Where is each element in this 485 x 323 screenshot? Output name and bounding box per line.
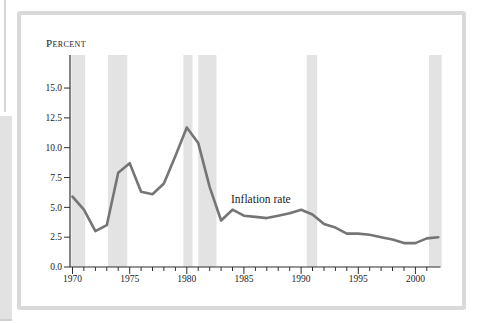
recession-band [198, 55, 216, 267]
recession-band [108, 55, 127, 267]
y-tick-label: 15.0 [45, 83, 62, 93]
x-tick-label: 1995 [349, 274, 368, 284]
y-tick-label: 10.0 [45, 143, 62, 153]
textbook-figure-page: 0.02.55.07.510.012.515.01970197519801985… [0, 0, 485, 323]
inflation-rate-line [73, 127, 439, 243]
series-label-inflation-rate: Inflation rate [231, 193, 291, 205]
y-tick-label: 12.5 [45, 113, 62, 123]
recession-band [71, 55, 85, 267]
y-tick-label: 5.0 [50, 203, 62, 213]
y-tick-label: 2.5 [50, 232, 62, 242]
x-tick-label: 1985 [234, 274, 253, 284]
x-tick-label: 1975 [120, 274, 139, 284]
recession-band [307, 55, 317, 267]
x-tick-label: 1970 [63, 274, 82, 284]
y-tick-label: 7.5 [50, 173, 62, 183]
y-axis-title: Percent [46, 37, 86, 49]
x-tick-label: 2000 [406, 274, 425, 284]
y-tick-label: 0.0 [50, 262, 62, 272]
recession-band [183, 55, 192, 267]
x-tick-label: 1990 [292, 274, 311, 284]
recession-band [429, 55, 442, 267]
x-tick-label: 1980 [177, 274, 196, 284]
